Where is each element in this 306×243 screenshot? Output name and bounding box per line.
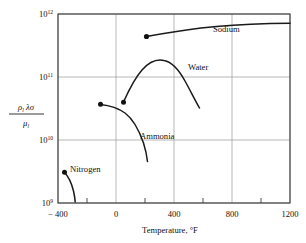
curve-label-nitrogen: Nitrogen: [70, 164, 101, 174]
marker-nitrogen-start: [62, 170, 67, 175]
chart-figure: 1012 1011 1010 109 − 400 0 400 800 1200 …: [0, 0, 306, 243]
x-tick-label-400: 400: [168, 209, 181, 219]
x-axis-title: Temperature, °F: [142, 225, 198, 235]
x-tick-label-0: 0: [114, 209, 118, 219]
marker-water-start: [121, 100, 126, 105]
merit-number-chart: 1012 1011 1010 109 − 400 0 400 800 1200 …: [0, 0, 306, 243]
y-axis-numerator: ρl λσ: [17, 102, 35, 113]
curve-label-sodium: Sodium: [213, 24, 240, 34]
marker-sodium-start: [144, 34, 149, 39]
x-tick-label-1200: 1200: [282, 209, 299, 219]
curve-label-ammonia: Ammonia: [140, 131, 175, 141]
marker-ammonia-start: [98, 102, 103, 107]
x-tick-label-800: 800: [226, 209, 239, 219]
curve-label-water: Water: [188, 62, 208, 72]
x-tick-label-minus400: − 400: [48, 209, 68, 219]
